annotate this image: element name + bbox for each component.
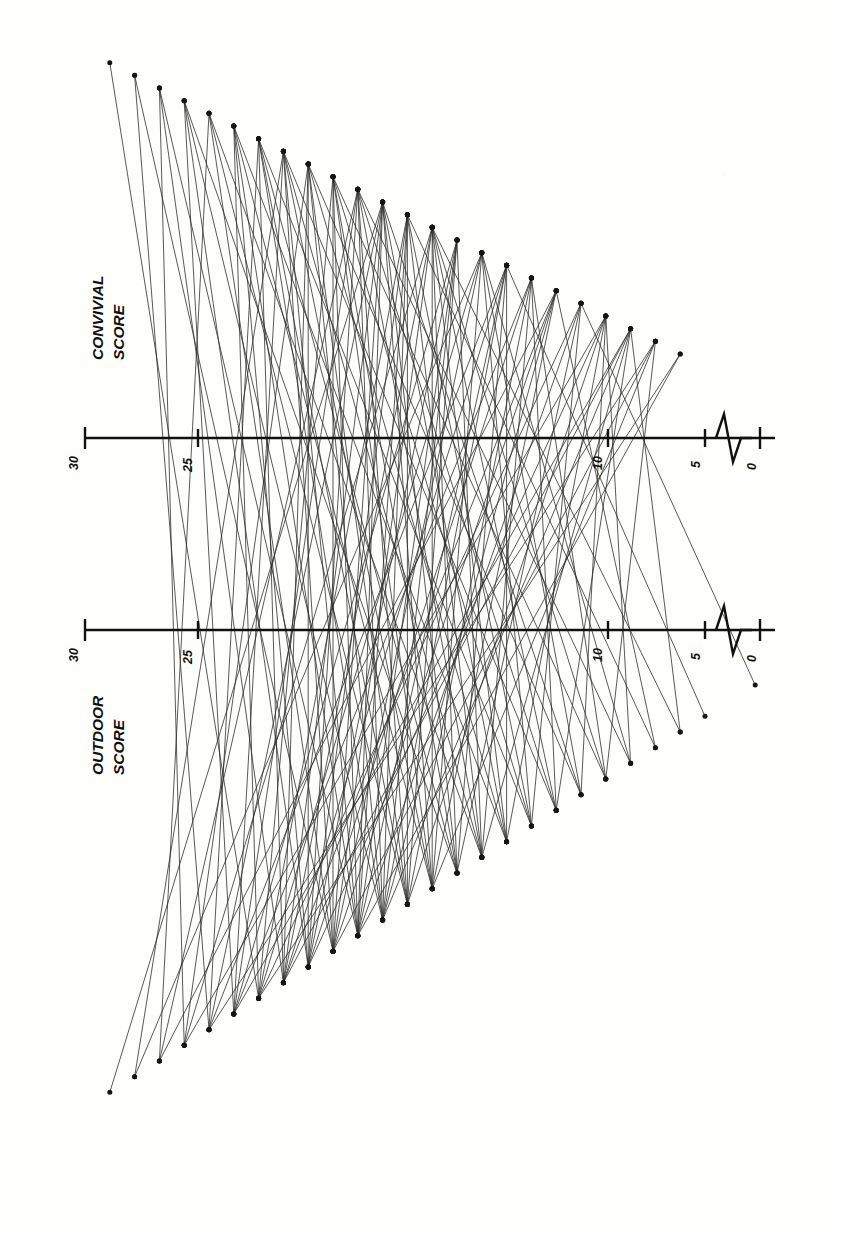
- profile-line: [259, 139, 284, 983]
- profile-plot-svg: 30 25 10 5 0 CONVIVIAL SCORE 30 25: [0, 0, 842, 1241]
- profile-line: [358, 354, 680, 936]
- axis-outdoor-title-line1: OUTDOOR: [89, 695, 106, 775]
- data-point-outdoor: [430, 886, 435, 891]
- data-point-convivial: [455, 238, 460, 243]
- data-point-outdoor: [455, 871, 460, 876]
- axis-convivial-ticklabel-5: 5: [689, 460, 703, 468]
- data-point-convivial: [405, 212, 410, 217]
- profile-line: [333, 177, 432, 889]
- data-point-convivial: [380, 200, 385, 205]
- profile-line: [110, 202, 383, 1092]
- axis-outdoor-ticklabel-0: 0: [745, 655, 759, 662]
- data-point-outdoor: [529, 824, 534, 829]
- profile-line: [234, 126, 308, 967]
- data-point-convivial: [678, 352, 683, 357]
- data-point-outdoor: [231, 1012, 236, 1017]
- profile-line: [383, 265, 507, 920]
- data-point-outdoor: [678, 730, 683, 735]
- data-point-outdoor: [281, 980, 286, 985]
- axis-convivial-ticklabel-30: 30: [67, 456, 81, 470]
- data-point-convivial: [603, 314, 608, 319]
- data-point-outdoor: [653, 745, 658, 750]
- axis-outdoor-title-line2: SCORE: [110, 719, 127, 775]
- data-point-convivial: [132, 73, 137, 78]
- data-point-convivial: [430, 225, 435, 230]
- profile-line: [209, 113, 482, 857]
- profile-line: [135, 75, 333, 951]
- data-point-convivial: [579, 301, 584, 306]
- data-point-outdoor: [306, 965, 311, 970]
- data-point-outdoor: [157, 1059, 162, 1064]
- profile-line: [234, 151, 284, 1014]
- profile-line: [283, 151, 357, 935]
- data-point-outdoor: [579, 792, 584, 797]
- profile-line: [159, 88, 283, 983]
- data-point-outdoor: [405, 902, 410, 907]
- profile-line: [358, 189, 631, 763]
- axis-convivial-ticklabel-10: 10: [591, 456, 605, 470]
- data-point-outdoor: [107, 1090, 112, 1095]
- axis-convivial-title-line1: CONVIVIAL: [89, 276, 106, 360]
- axis-convivial-ticklabel-0: 0: [745, 463, 759, 470]
- data-point-outdoor: [554, 808, 559, 813]
- data-point-convivial: [554, 288, 559, 293]
- data-point-convivial: [331, 174, 336, 179]
- data-point-convivial: [207, 111, 212, 116]
- data-point-convivial: [355, 187, 360, 192]
- axis-convivial-title-line2: SCORE: [110, 304, 127, 360]
- axis-outdoor-ticklabel-30: 30: [67, 648, 81, 662]
- data-point-outdoor: [603, 777, 608, 782]
- data-point-outdoor: [182, 1043, 187, 1048]
- data-point-outdoor: [132, 1074, 137, 1079]
- profile-line: [308, 164, 581, 795]
- data-point-convivial: [653, 339, 658, 344]
- axis-convivial-ticklabel-25: 25: [181, 457, 195, 473]
- profile-line: [159, 88, 357, 936]
- axis-outdoor-ticklabel-25: 25: [181, 649, 195, 665]
- data-point-outdoor: [380, 918, 385, 923]
- figure-page: 30 25 10 5 0 CONVIVIAL SCORE 30 25: [0, 0, 842, 1241]
- data-point-outdoor: [207, 1027, 212, 1032]
- data-point-convivial: [479, 250, 484, 255]
- profile-line: [308, 215, 407, 967]
- plot-area: 30 25 10 5 0 CONVIVIAL SCORE 30 25: [0, 0, 842, 1241]
- profile-line: [432, 227, 680, 732]
- data-point-convivial: [256, 136, 261, 141]
- data-point-outdoor: [753, 683, 758, 688]
- profile-line: [184, 101, 234, 1014]
- axis-outdoor-ticklabel-5: 5: [689, 652, 703, 660]
- data-point-convivial: [504, 263, 509, 268]
- data-point-outdoor: [355, 933, 360, 938]
- data-point-convivial: [529, 276, 534, 281]
- data-point-convivial: [107, 60, 112, 65]
- data-point-convivial: [157, 86, 162, 91]
- data-point-outdoor: [479, 855, 484, 860]
- profile-line: [358, 202, 383, 936]
- axis-outdoor-ticklabel-10: 10: [591, 648, 605, 662]
- profile-line: [234, 189, 358, 1014]
- profile-lines-group: [110, 63, 755, 1093]
- data-point-convivial: [281, 149, 286, 154]
- profile-line: [135, 75, 209, 1029]
- data-point-outdoor: [703, 714, 708, 719]
- data-point-outdoor: [331, 949, 336, 954]
- data-point-outdoor: [256, 996, 261, 1001]
- profile-line: [631, 329, 681, 732]
- data-point-convivial: [306, 162, 311, 167]
- data-point-convivial: [231, 124, 236, 129]
- profile-line: [308, 278, 531, 967]
- profile-line: [333, 177, 606, 779]
- data-point-outdoor: [504, 839, 509, 844]
- data-point-convivial: [182, 98, 187, 103]
- profile-line: [234, 278, 532, 1014]
- data-point-outdoor: [628, 761, 633, 766]
- data-point-convivial: [628, 326, 633, 331]
- profile-line: [184, 101, 308, 967]
